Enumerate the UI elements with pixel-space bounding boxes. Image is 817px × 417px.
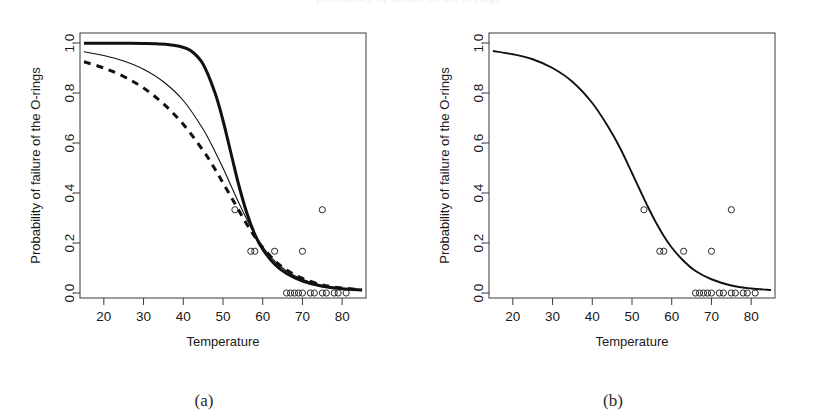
data-point-circle (319, 207, 325, 213)
y-axis-title: Probability of failure of the O-rings (28, 67, 43, 264)
data-series-line (84, 62, 362, 290)
x-axis-tick-label: 20 (96, 309, 111, 324)
y-axis-tick-label: 0.8 (471, 84, 486, 103)
data-point-circle (343, 290, 349, 296)
panel-a: 0.00.20.40.60.81.020304050607080Temperat… (0, 0, 408, 417)
plot-b-canvas: 0.00.20.40.60.81.020304050607080Temperat… (409, 0, 817, 380)
data-series-line (84, 43, 362, 290)
y-axis-tick-label: 1.0 (62, 34, 77, 53)
data-series-line (493, 51, 771, 290)
y-axis-tick-label: 0.0 (471, 284, 486, 303)
x-axis-tick-label: 40 (585, 309, 600, 324)
x-axis-tick-label: 80 (335, 309, 350, 324)
data-point-circle (708, 290, 714, 296)
panel-b: 0.00.20.40.60.81.020304050607080Temperat… (409, 0, 817, 417)
y-axis-tick-label: 0.4 (62, 183, 77, 202)
x-axis-tick-label: 80 (744, 309, 759, 324)
data-point-circle (720, 290, 726, 296)
y-axis-tick-label: 0.2 (62, 234, 77, 253)
data-point-circle (232, 207, 238, 213)
y-axis-tick-label: 1.0 (471, 34, 486, 53)
data-point-circle (661, 248, 667, 254)
x-axis-tick-label: 20 (505, 309, 520, 324)
data-point-circle (299, 290, 305, 296)
x-axis-tick-label: 40 (176, 309, 191, 324)
x-axis-tick-label: 50 (624, 309, 639, 324)
data-point-circle (708, 248, 714, 254)
y-axis-tick-label: 0.8 (62, 84, 77, 103)
data-point-circle (681, 248, 687, 254)
data-point-circle (252, 248, 258, 254)
plot-a-canvas: 0.00.20.40.60.81.020304050607080Temperat… (0, 0, 408, 380)
x-axis-tick-label: 70 (295, 309, 310, 324)
data-point-circle (335, 290, 341, 296)
y-axis-tick-label: 0.4 (471, 183, 486, 202)
y-axis-tick-label: 0.0 (62, 284, 77, 303)
figure-two-panel-oring-plots: 0.00.20.40.60.81.020304050607080Temperat… (0, 0, 817, 417)
panel-a-caption: (a) (0, 391, 408, 411)
data-point-circle (323, 290, 329, 296)
y-axis-tick-label: 0.6 (471, 134, 486, 153)
x-axis-tick-label: 30 (136, 309, 151, 324)
data-point-circle (732, 290, 738, 296)
x-axis-title: Temperature (596, 334, 669, 349)
plot-frame (489, 33, 775, 298)
data-point-circle (752, 290, 758, 296)
data-point-circle (641, 207, 647, 213)
x-axis-tick-label: 60 (664, 309, 679, 324)
data-point-circle (744, 290, 750, 296)
x-axis-tick-label: 70 (704, 309, 719, 324)
x-axis-tick-label: 50 (215, 309, 230, 324)
data-point-circle (299, 248, 305, 254)
y-axis-tick-label: 0.2 (471, 234, 486, 253)
x-axis-tick-label: 30 (545, 309, 560, 324)
data-point-circle (272, 248, 278, 254)
y-axis-title: Probability of failure of the O-rings (437, 67, 452, 264)
plot-frame (80, 33, 366, 298)
data-series-line (84, 52, 362, 290)
data-point-circle (728, 207, 734, 213)
y-axis-tick-label: 0.6 (62, 134, 77, 153)
data-point-circle (311, 290, 317, 296)
x-axis-tick-label: 60 (255, 309, 270, 324)
x-axis-title: Temperature (187, 334, 260, 349)
panel-b-caption: (b) (409, 391, 817, 411)
